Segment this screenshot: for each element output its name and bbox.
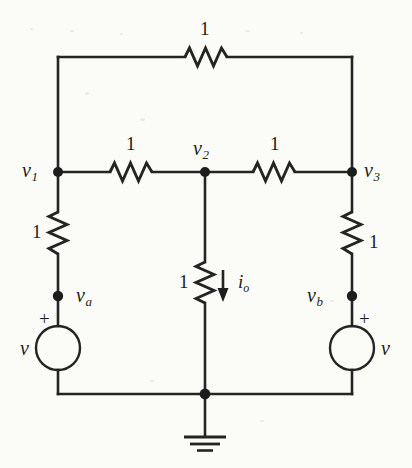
resistor-right-vert-label: 1	[369, 232, 379, 251]
node-label-v3-base: v	[364, 159, 373, 181]
source-right-label: v	[381, 338, 390, 358]
source-right-circle	[330, 326, 374, 370]
node-label-v2-base: v	[193, 137, 202, 159]
node-dot-v2	[200, 167, 210, 177]
source-left-plus: +	[39, 309, 50, 328]
node-label-vb-sub: b	[316, 294, 323, 309]
circuit-schematic	[0, 0, 412, 468]
node-label-va-base: v	[76, 284, 85, 306]
node-label-v1-base: v	[22, 159, 31, 181]
node-label-vb-base: v	[307, 284, 316, 306]
node-label-v2: v2	[193, 138, 208, 158]
node-label-vb: vb	[307, 285, 322, 305]
node-dot-v3	[347, 167, 357, 177]
source-left-label: v	[20, 338, 29, 358]
node-dot-ground	[200, 389, 211, 400]
node-label-va-sub: a	[85, 294, 92, 309]
node-label-v2-sub: 2	[202, 147, 209, 162]
current-label-io: io	[238, 272, 249, 291]
circuit-diagram-canvas: 1 1 1 1 1 1 v1 v2 v3 va vb + v + v io	[0, 0, 412, 468]
resistor-right-vert-symbol	[343, 212, 361, 254]
current-arrow-head	[218, 288, 229, 302]
source-left-circle	[36, 326, 80, 370]
node-label-va: va	[76, 285, 91, 305]
source-right-plus: +	[359, 309, 370, 328]
resistor-top-label: 1	[200, 19, 210, 38]
node-dot-va	[53, 291, 63, 301]
current-label-sub: o	[243, 281, 249, 295]
resistor-left-vert-label: 1	[32, 222, 42, 241]
resistor-top-symbol	[185, 48, 227, 66]
resistor-right-mid-symbol	[253, 163, 295, 181]
resistor-center-vert-label: 1	[179, 272, 189, 291]
node-label-v3-sub: 3	[373, 169, 380, 184]
node-dot-vb	[347, 291, 357, 301]
node-label-v3: v3	[364, 160, 379, 180]
node-label-v1-sub: 1	[31, 169, 38, 184]
resistor-left-mid-label: 1	[126, 134, 136, 153]
node-dot-v1	[53, 167, 63, 177]
resistor-center-vert-symbol	[196, 262, 214, 303]
node-label-v1: v1	[22, 160, 37, 180]
resistor-left-vert-symbol	[49, 212, 67, 254]
resistor-left-mid-symbol	[110, 163, 152, 181]
resistor-right-mid-label: 1	[270, 134, 280, 153]
